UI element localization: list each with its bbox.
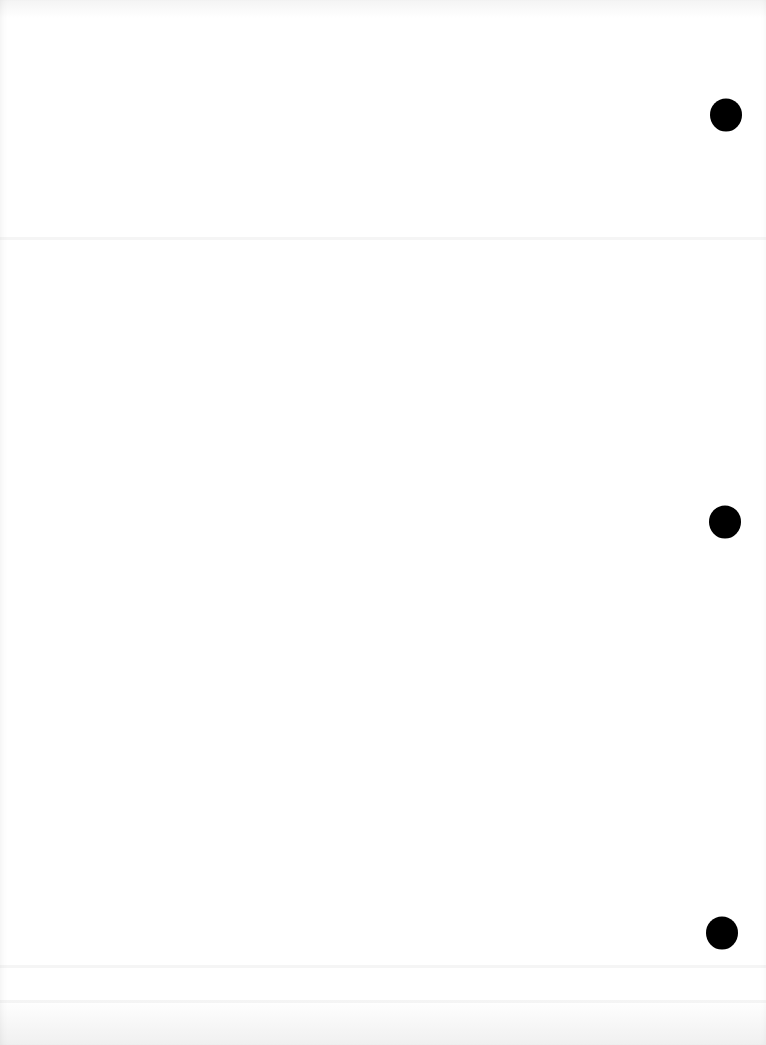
scan-artifact [0,1000,766,1003]
punch-hole-top [710,99,742,132]
scan-artifact [0,965,766,968]
punch-hole-bottom [706,917,738,950]
punch-hole-middle [709,506,741,539]
scan-artifact [0,237,766,240]
blank-page [0,0,766,1045]
